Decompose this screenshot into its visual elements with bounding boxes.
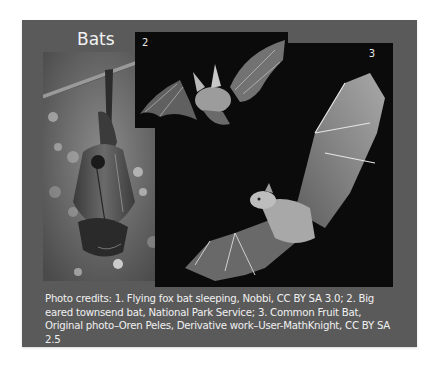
photo-number-2: 2 — [142, 37, 148, 48]
slide: Bats — [22, 20, 417, 347]
slide-title: Bats — [77, 29, 137, 49]
photo-townsend-bat: 2 — [135, 32, 288, 128]
townsend-bat-image — [135, 32, 288, 128]
photo-number-3: 3 — [369, 48, 375, 59]
photo-credits: Photo credits: 1. Flying fox bat sleepin… — [45, 292, 395, 346]
